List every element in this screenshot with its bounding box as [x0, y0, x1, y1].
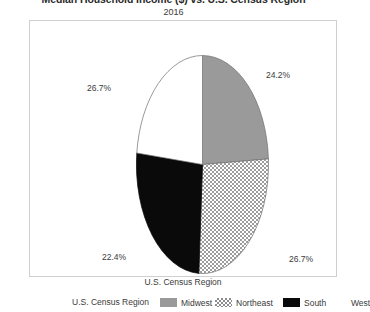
- data-label-south: 22.4%: [102, 252, 126, 262]
- legend-item-midwest[interactable]: Midwest: [160, 296, 212, 309]
- x-axis-title: U.S. Census Region: [29, 277, 337, 287]
- chart-subtitle: 2016: [0, 6, 347, 19]
- data-label-northeast: 26.7%: [289, 254, 313, 264]
- pie-graphic: [136, 55, 269, 274]
- chart-title-block: Median Household Income ($) vs. U.S. Cen…: [0, 0, 347, 19]
- legend-title: U.S. Census Region: [72, 297, 149, 307]
- pie-chart: [136, 48, 269, 281]
- legend: U.S. Census Region Midwest Northeast Sou…: [0, 296, 347, 312]
- page-title: Median Household Income ($) vs. U.S. Cen…: [0, 0, 347, 5]
- pie-slice-south[interactable]: [136, 153, 202, 273]
- pie-slice-northeast[interactable]: [199, 159, 269, 274]
- pie-slice-west[interactable]: [137, 55, 203, 164]
- white-swatch-icon: [330, 298, 347, 307]
- legend-item-west[interactable]: West: [330, 296, 370, 309]
- legend-item-northeast[interactable]: Northeast: [215, 296, 273, 309]
- legend-label-northeast: Northeast: [236, 298, 273, 308]
- solid-gray-swatch-icon: [160, 298, 177, 307]
- checker-swatch-icon: [215, 298, 232, 307]
- pie-slice-midwest[interactable]: [203, 56, 269, 165]
- plot-area: 26.7% 24.2% 22.4% 26.7%: [29, 20, 337, 277]
- data-label-midwest: 24.2%: [266, 70, 290, 80]
- legend-label-south: South: [304, 298, 326, 308]
- data-label-west: 26.7%: [87, 83, 111, 93]
- legend-label-west: West: [351, 298, 370, 308]
- legend-label-midwest: Midwest: [181, 298, 212, 308]
- legend-item-south[interactable]: South: [283, 296, 326, 309]
- solid-black-swatch-icon: [283, 298, 300, 307]
